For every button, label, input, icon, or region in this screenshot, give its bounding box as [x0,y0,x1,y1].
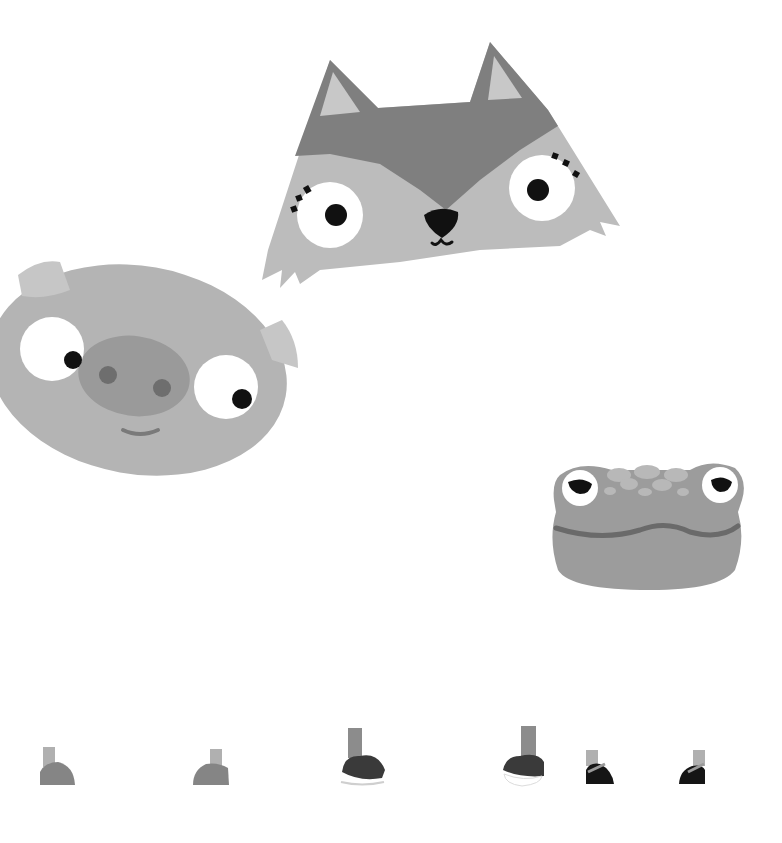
pig-foot-right [193,749,229,785]
pig-nostril-left [99,366,117,384]
pig-nostril-right [153,379,171,397]
fox-foot-right [503,726,544,786]
fox-foot-left [341,728,385,785]
pig-face [0,242,304,499]
pig-eye-right [194,355,258,419]
illustration-canvas [0,0,782,843]
frog-foot-right [679,750,705,784]
frog-foot-left [586,750,614,784]
pig-pupil-right [232,389,252,409]
fox-pupil-right [527,179,549,201]
fox-face [262,42,620,288]
pig-foot-left [40,747,75,785]
frog-face [552,463,743,590]
pig-eye-left [20,317,84,381]
pig-pupil-left [64,351,82,369]
pig-ear-left [18,261,70,297]
fox-pupil-left [325,204,347,226]
